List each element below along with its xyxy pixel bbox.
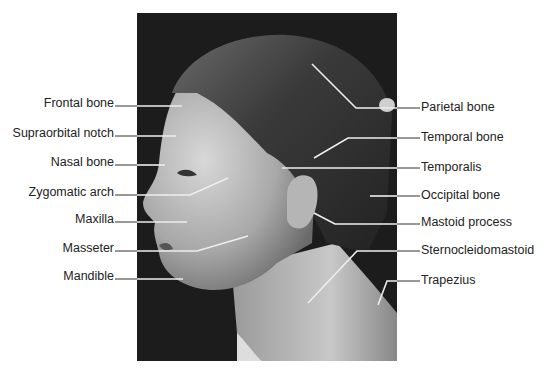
- label-sternocleidomastoid: Sternocleidomastoid: [421, 243, 534, 257]
- label-temporalis: Temporalis: [421, 160, 481, 174]
- label-temporal-bone: Temporal bone: [421, 130, 504, 144]
- label-frontal-bone: Frontal bone: [44, 96, 114, 110]
- label-supraorbital-notch: Supraorbital notch: [13, 126, 114, 140]
- label-nasal-bone: Nasal bone: [51, 155, 114, 169]
- label-trapezius: Trapezius: [421, 273, 475, 287]
- label-mandible: Mandible: [63, 269, 114, 283]
- label-mastoid-process: Mastoid process: [421, 215, 512, 229]
- label-masseter: Masseter: [63, 241, 114, 255]
- label-zygomatic-arch: Zygomatic arch: [29, 185, 114, 199]
- head-profile-illustration: [137, 13, 397, 361]
- label-occipital-bone: Occipital bone: [421, 188, 500, 202]
- label-parietal-bone: Parietal bone: [421, 100, 495, 114]
- label-maxilla: Maxilla: [75, 212, 114, 226]
- head-profile-photo: [137, 13, 397, 361]
